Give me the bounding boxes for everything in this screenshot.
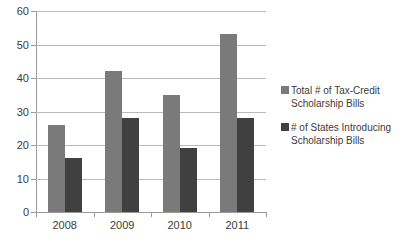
- y-axis-tick-label: 30: [1, 107, 29, 118]
- x-axis-tick-mark: [266, 212, 267, 217]
- bar: [122, 118, 139, 212]
- legend-swatch-icon: [281, 123, 289, 131]
- bar: [180, 148, 197, 212]
- x-axis-tick-label: 2008: [36, 219, 94, 232]
- y-axis-tick-label: 10: [1, 174, 29, 185]
- x-axis-tick-mark: [36, 212, 37, 217]
- y-axis-tick-label: 40: [1, 73, 29, 84]
- y-axis-tick-labels: 0102030405060: [0, 0, 29, 246]
- bar: [163, 95, 180, 212]
- y-axis-tick-label: 50: [1, 40, 29, 51]
- y-axis-tick-mark: [31, 212, 36, 213]
- x-axis-tick-marks: [36, 212, 266, 217]
- y-axis-tick-mark: [31, 145, 36, 146]
- legend-swatch-icon: [281, 86, 289, 94]
- bar: [105, 71, 122, 212]
- x-axis-tick-labels: 2008200920102011: [36, 219, 266, 235]
- y-axis-tick-mark: [31, 45, 36, 46]
- y-axis-tick-label: 60: [1, 6, 29, 17]
- bar: [237, 118, 254, 212]
- plot-area: [36, 11, 266, 212]
- x-axis-tick-mark: [209, 212, 210, 217]
- x-axis-tick-label: 2011: [209, 219, 267, 232]
- legend-entry[interactable]: # of States Introducing Scholarship Bill…: [281, 121, 411, 147]
- legend-entry[interactable]: Total # of Tax-Credit Scholarship Bills: [281, 84, 411, 110]
- x-axis-tick-mark: [94, 212, 95, 217]
- y-axis-tick-mark: [31, 78, 36, 79]
- y-axis-tick-mark: [31, 112, 36, 113]
- bar: [220, 34, 237, 212]
- y-axis-tick-mark: [31, 179, 36, 180]
- legend-label: Total # of Tax-Credit Scholarship Bills: [291, 84, 380, 110]
- y-axis-tick-label: 20: [1, 140, 29, 151]
- bar-chart: 0102030405060 2008200920102011 Total # o…: [0, 0, 414, 246]
- chart-legend: Total # of Tax-Credit Scholarship Bills#…: [281, 84, 411, 158]
- x-axis-tick-mark: [151, 212, 152, 217]
- bar: [65, 158, 82, 212]
- bar: [48, 125, 65, 212]
- x-axis-tick-label: 2010: [151, 219, 209, 232]
- x-axis-tick-label: 2009: [94, 219, 152, 232]
- y-axis-tick-label: 0: [1, 207, 29, 218]
- y-axis-tick-mark: [31, 11, 36, 12]
- bars-layer: [36, 11, 266, 212]
- legend-label: # of States Introducing Scholarship Bill…: [291, 121, 391, 147]
